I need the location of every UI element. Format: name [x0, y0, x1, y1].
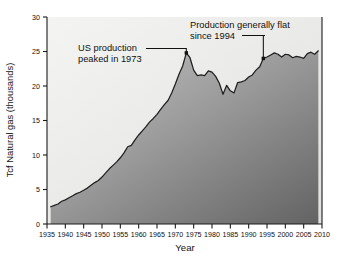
annotation-text2-peak-1973: peaked in 1973 [78, 54, 142, 64]
x-tick-label: 1960 [131, 231, 147, 239]
y-tick-label: 10 [32, 152, 40, 160]
x-tick-label: 1955 [112, 231, 128, 239]
x-tick-label: 1945 [76, 231, 92, 239]
y-axis: 051015202530 [32, 14, 47, 229]
x-tick-label: 1975 [186, 231, 202, 239]
annotation-marker-peak-1973 [185, 51, 188, 54]
y-tick-label: 30 [32, 14, 40, 22]
chart-figure: 051015202530 193519401945195019551960196… [0, 0, 342, 262]
y-tick-label: 0 [36, 221, 40, 229]
natural-gas-production-chart: 051015202530 193519401945195019551960196… [0, 0, 342, 262]
x-axis: 1935194019451950195519601965197019751980… [39, 224, 330, 239]
y-axis-title: Tcf Natural gas (thousands) [4, 63, 15, 178]
x-tick-label: 2000 [277, 231, 293, 239]
x-tick-label: 1935 [39, 231, 55, 239]
x-tick-label: 2005 [296, 231, 312, 239]
x-tick-label: 1995 [259, 231, 275, 239]
x-tick-label: 1970 [167, 231, 183, 239]
y-tick-label: 15 [32, 117, 40, 125]
y-tick-label: 25 [32, 48, 40, 56]
x-tick-label: 1965 [149, 231, 165, 239]
x-tick-label: 1950 [94, 231, 110, 239]
x-axis-title: Year [175, 242, 195, 253]
annotation-text-flat-since-1994: Production generally flat [190, 20, 290, 30]
x-tick-label: 1990 [241, 231, 257, 239]
annotation-text-peak-1973: US production [78, 43, 137, 53]
x-tick-label: 1985 [222, 231, 238, 239]
y-tick-label: 5 [36, 186, 40, 194]
x-tick-label: 1980 [204, 231, 220, 239]
x-tick-label: 2010 [314, 231, 330, 239]
annotation-marker-flat-since-1994 [262, 57, 265, 60]
annotation-text2-flat-since-1994: since 1994 [190, 31, 235, 41]
y-tick-label: 20 [32, 83, 40, 91]
x-tick-label: 1940 [57, 231, 73, 239]
